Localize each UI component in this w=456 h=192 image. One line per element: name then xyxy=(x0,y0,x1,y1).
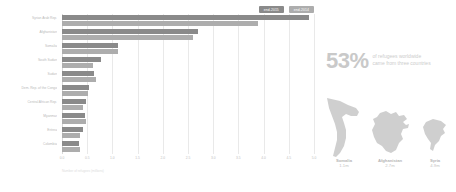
x-axis-title: Number of refugees (millions) xyxy=(62,169,104,173)
country-value: 1.1m xyxy=(324,163,364,169)
bar-end-2015[interactable] xyxy=(62,85,89,90)
chart-legend: end-2015 end-2014 xyxy=(259,6,314,13)
category-label: Eritrea xyxy=(0,128,57,132)
category-label: South Sudan xyxy=(0,58,57,62)
category-label: Colombia xyxy=(0,142,57,146)
stat-percentage: 53% xyxy=(326,50,369,72)
stat-description-line2: came from three countries xyxy=(373,60,431,67)
bar-end-2014[interactable] xyxy=(62,105,83,110)
category-label: Dem. Rep. of the Congo xyxy=(0,86,57,90)
gridline xyxy=(314,14,315,154)
x-tick-label: 5.0 xyxy=(312,156,317,160)
bar-end-2014[interactable] xyxy=(62,91,88,96)
bar-end-2014[interactable] xyxy=(62,147,80,152)
bar-end-2014[interactable] xyxy=(62,49,118,54)
bar-end-2015[interactable] xyxy=(62,15,309,20)
bar-end-2015[interactable] xyxy=(62,141,79,146)
somalia-map-icon xyxy=(326,96,360,158)
syria-map-icon xyxy=(422,118,448,152)
legend-item-end-2014[interactable]: end-2014 xyxy=(289,6,314,13)
bar-end-2014[interactable] xyxy=(62,63,93,68)
bar-group xyxy=(62,43,314,57)
bar-group xyxy=(62,127,314,141)
x-tick-label: 3.5 xyxy=(236,156,241,160)
stat-description: of refugees worldwide came from three co… xyxy=(373,53,431,66)
category-label: Sudan xyxy=(0,72,57,76)
country-value: 4.9m xyxy=(416,163,454,169)
bar-rows xyxy=(62,14,314,154)
bar-end-2014[interactable] xyxy=(62,21,258,26)
bar-group xyxy=(62,15,314,29)
bar-end-2014[interactable] xyxy=(62,133,80,138)
bar-end-2015[interactable] xyxy=(62,57,101,62)
category-label: Myanmar xyxy=(0,114,57,118)
plot-area xyxy=(62,14,314,154)
country-stat-afghanistan: Afghanistan2.7m xyxy=(366,158,414,169)
stat-block: 53% of refugees worldwide came from thre… xyxy=(326,50,431,72)
bar-group xyxy=(62,57,314,71)
country-stat-syria: Syria4.9m xyxy=(416,158,454,169)
bar-end-2015[interactable] xyxy=(62,99,86,104)
x-tick-label: 1.5 xyxy=(135,156,140,160)
x-tick-label: 2.0 xyxy=(161,156,166,160)
bar-end-2015[interactable] xyxy=(62,71,94,76)
bar-end-2014[interactable] xyxy=(62,119,86,124)
bar-end-2014[interactable] xyxy=(62,77,96,82)
x-tick-label: 1.0 xyxy=(110,156,115,160)
x-tick-label: 0.0 xyxy=(60,156,65,160)
x-tick-label: 4.5 xyxy=(287,156,292,160)
bar-end-2015[interactable] xyxy=(62,127,83,132)
category-label: Syrian Arab Rep. xyxy=(0,16,57,20)
bar-group xyxy=(62,113,314,127)
refugee-origin-bar-chart: end-2015 end-2014 Syrian Arab Rep.Afghan… xyxy=(0,0,322,192)
country-value: 2.7m xyxy=(366,163,414,169)
category-label: Somalia xyxy=(0,44,57,48)
category-label: Afghanistan xyxy=(0,30,57,34)
x-tick-label: 0.5 xyxy=(85,156,90,160)
infographic-screenshot: end-2015 end-2014 Syrian Arab Rep.Afghan… xyxy=(0,0,456,192)
country-labels: Somalia1.1mAfghanistan2.7mSyria4.9m xyxy=(322,158,456,188)
category-label: Central African Rep. xyxy=(0,100,57,104)
x-axis-ticks: 0.00.51.01.52.02.53.03.54.04.55.0 xyxy=(62,156,314,164)
bar-group xyxy=(62,29,314,43)
x-tick-label: 3.0 xyxy=(211,156,216,160)
bar-end-2015[interactable] xyxy=(62,29,198,34)
bar-group xyxy=(62,141,314,155)
category-axis-labels: Syrian Arab Rep.AfghanistanSomaliaSouth … xyxy=(0,14,60,154)
x-tick-label: 2.5 xyxy=(186,156,191,160)
country-stat-somalia: Somalia1.1m xyxy=(324,158,364,169)
legend-item-end-2015[interactable]: end-2015 xyxy=(259,6,284,13)
country-map-icons xyxy=(322,92,456,158)
three-countries-infographic: 53% of refugees worldwide came from thre… xyxy=(322,0,456,192)
bar-group xyxy=(62,99,314,113)
bar-end-2015[interactable] xyxy=(62,113,85,118)
bar-group xyxy=(62,71,314,85)
bar-end-2014[interactable] xyxy=(62,35,193,40)
x-tick-label: 4.0 xyxy=(261,156,266,160)
afghanistan-map-icon xyxy=(370,110,410,154)
bar-end-2015[interactable] xyxy=(62,43,118,48)
bar-group xyxy=(62,85,314,99)
